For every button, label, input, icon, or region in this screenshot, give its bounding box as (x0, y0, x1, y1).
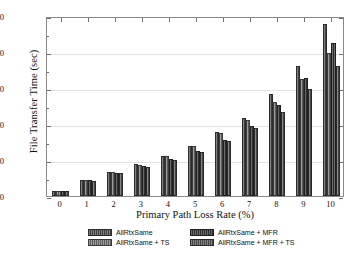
x-axis-tick-label: 6 (209, 199, 235, 209)
y-axis-minor-tick (47, 36, 49, 37)
x-axis-tick-label: 1 (74, 199, 100, 209)
y-axis-tick-label: 150 (0, 84, 4, 94)
bar (227, 141, 231, 196)
legend-column-left: AllRtxSameAllRtxSame + TS (88, 228, 169, 248)
bar-chart-figure: File Transfer Time (sec) 050100150200250… (0, 0, 355, 254)
bar-group (242, 18, 258, 196)
x-axis-tick-label: 2 (101, 199, 127, 209)
x-axis-tick-label: 9 (290, 199, 316, 209)
legend-item: AllRtxSame + MFR + TS (190, 238, 295, 247)
bar (308, 89, 312, 196)
x-axis-tick-label: 5 (182, 199, 208, 209)
legend-label: AllRtxSame (116, 228, 153, 237)
plot-area (46, 17, 344, 197)
bar-group (80, 18, 96, 196)
y-axis-tick (47, 90, 51, 91)
y-axis-tick (339, 162, 343, 163)
legend-label: AllRtxSame + MFR (218, 228, 278, 237)
x-axis-title: Primary Path Loss Rate (%) (46, 209, 344, 220)
y-axis-tick (47, 162, 51, 163)
y-axis-tick (339, 54, 343, 55)
legend-label: AllRtxSame + MFR + TS (218, 238, 295, 247)
x-axis-tick-label: 4 (155, 199, 181, 209)
bar (65, 191, 69, 196)
legend-item: AllRtxSame (88, 228, 169, 237)
legend-swatch (88, 229, 112, 236)
y-axis-tick-label: 100 (0, 120, 4, 130)
bar (119, 173, 123, 196)
y-axis-minor-tick (47, 144, 49, 145)
y-axis-tick-label: 0 (0, 192, 4, 202)
y-axis-tick (47, 18, 51, 19)
y-axis-tick-label: 50 (0, 156, 4, 166)
legend-swatch (190, 239, 214, 246)
bar-group (188, 18, 204, 196)
y-axis-tick (339, 126, 343, 127)
x-axis-tick-label: 10 (317, 199, 343, 209)
y-axis-minor-tick (47, 108, 49, 109)
y-axis-tick (339, 90, 343, 91)
legend-column-right: AllRtxSame + MFRAllRtxSame + MFR + TS (190, 228, 295, 248)
bar (146, 167, 150, 196)
y-axis-tick (339, 18, 343, 19)
bar (336, 66, 340, 196)
y-axis-tick (47, 126, 51, 127)
chart-legend: AllRtxSameAllRtxSame + TS AllRtxSame + M… (62, 228, 312, 250)
bar (173, 160, 177, 196)
bar-group (107, 18, 123, 196)
bar (281, 112, 285, 196)
bar-group (296, 18, 312, 196)
legend-item: AllRtxSame + TS (88, 238, 169, 247)
x-axis-tick-label: 7 (236, 199, 262, 209)
y-axis-title: File Transfer Time (sec) (28, 7, 39, 197)
legend-swatch (88, 239, 112, 246)
y-axis-tick (47, 54, 51, 55)
bar-group (215, 18, 231, 196)
bar-group (161, 18, 177, 196)
y-axis-tick-label: 200 (0, 48, 4, 58)
x-axis-tick-label: 0 (47, 199, 73, 209)
legend-swatch (190, 229, 214, 236)
y-axis-minor-tick (47, 180, 49, 181)
bar (92, 181, 96, 196)
legend-item: AllRtxSame + MFR (190, 228, 295, 237)
bar-group (52, 18, 68, 196)
bar-group (323, 18, 339, 196)
x-axis-tick-label: 3 (128, 199, 154, 209)
bar (254, 128, 258, 196)
y-axis-tick-label: 250 (0, 12, 4, 22)
x-axis-tick-label: 8 (263, 199, 289, 209)
y-axis-minor-tick (47, 72, 49, 73)
bar-group (269, 18, 285, 196)
bar (200, 152, 204, 196)
bar-group (134, 18, 150, 196)
legend-label: AllRtxSame + TS (116, 238, 169, 247)
